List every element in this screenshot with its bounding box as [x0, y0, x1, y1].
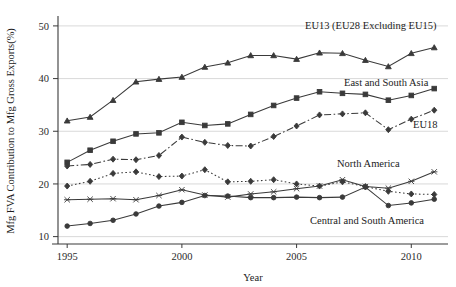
data-point-circle [409, 201, 414, 206]
data-point-diamond [363, 110, 368, 116]
data-point-square [203, 123, 208, 128]
series-4 [65, 167, 437, 198]
data-point-diamond [409, 191, 414, 197]
data-point-square [180, 120, 185, 125]
data-point-circle [432, 197, 437, 202]
data-point-diamond [386, 188, 391, 194]
data-point-circle [203, 193, 208, 198]
data-point-diamond [110, 170, 115, 176]
data-point-diamond [432, 107, 437, 113]
y-tick-label: 40 [39, 73, 50, 84]
data-point-circle [248, 195, 253, 200]
data-point-diamond [179, 173, 184, 179]
data-point-circle [386, 203, 391, 208]
data-point-circle [134, 212, 139, 217]
data-point-circle [88, 221, 93, 226]
data-point-circle [363, 185, 368, 190]
series-label-5: Central and South America [310, 215, 424, 226]
data-point-circle [271, 195, 276, 200]
data-point-x [64, 197, 70, 202]
y-tick-label: 30 [39, 126, 50, 137]
y-axis-title: Mfg FVA Contribution to Mfg Gross Export… [5, 28, 17, 234]
x-tick-label: 2000 [171, 251, 192, 262]
data-point-triangle [431, 45, 437, 50]
data-point-diamond [133, 157, 138, 163]
x-tick-label: 2010 [401, 251, 422, 262]
data-point-diamond [340, 111, 345, 117]
data-point-circle [340, 195, 345, 200]
data-point-square [248, 112, 253, 117]
data-point-diamond [317, 112, 322, 118]
line-chart: 10203040501995200020052010YearMfg FVA Co… [0, 0, 456, 287]
data-point-square [340, 91, 345, 96]
data-point-circle [294, 195, 299, 200]
y-tick-label: 10 [39, 231, 50, 242]
data-point-square [432, 86, 437, 91]
data-point-diamond [248, 178, 253, 184]
series-2 [65, 86, 437, 164]
data-point-diamond [225, 142, 230, 148]
data-point-circle [225, 194, 230, 199]
data-point-diamond [88, 178, 93, 184]
x-tick-label: 2005 [286, 251, 307, 262]
x-tick-label: 1995 [57, 251, 78, 262]
data-point-circle [180, 200, 185, 205]
data-point-x [179, 187, 185, 192]
data-point-diamond [133, 169, 138, 175]
series-label-4: North America [337, 158, 400, 169]
data-point-x [110, 196, 116, 201]
data-point-diamond [294, 123, 299, 129]
data-point-x [408, 179, 414, 184]
data-point-diamond [294, 181, 299, 187]
y-tick-label: 50 [39, 21, 50, 32]
data-point-square [363, 92, 368, 97]
data-point-square [409, 93, 414, 98]
data-point-diamond [386, 127, 391, 133]
data-point-x [431, 169, 437, 174]
series-line [67, 89, 434, 163]
data-point-circle [157, 204, 162, 209]
data-point-circle [111, 218, 116, 223]
series-label-1: EU13 (EU28 Excluding EU15) [305, 20, 437, 32]
data-point-x [156, 193, 162, 198]
data-point-diamond [110, 156, 115, 162]
data-point-diamond [156, 174, 161, 180]
data-point-diamond [202, 139, 207, 145]
data-point-square [294, 96, 299, 101]
data-point-diamond [88, 161, 93, 167]
data-point-circle [317, 195, 322, 200]
data-point-diamond [248, 143, 253, 149]
data-point-square [111, 139, 116, 144]
data-point-square [271, 103, 276, 108]
data-point-square [134, 132, 139, 137]
series-label-2: East and South Asia [344, 77, 429, 88]
data-point-diamond [271, 134, 276, 140]
data-point-square [317, 89, 322, 94]
data-point-circle [65, 224, 70, 229]
data-point-x [133, 197, 139, 202]
data-point-square [88, 148, 93, 153]
x-axis-title: Year [243, 272, 263, 283]
chart-figure: 10203040501995200020052010YearMfg FVA Co… [0, 0, 456, 287]
data-point-x [87, 197, 93, 202]
data-point-square [157, 131, 162, 136]
y-tick-label: 20 [39, 179, 50, 190]
data-point-diamond [271, 177, 276, 183]
data-point-diamond [202, 167, 207, 173]
series-label-3: EU18 [413, 119, 438, 130]
data-point-square [386, 98, 391, 103]
data-point-x [270, 189, 276, 194]
data-point-square [225, 122, 230, 127]
